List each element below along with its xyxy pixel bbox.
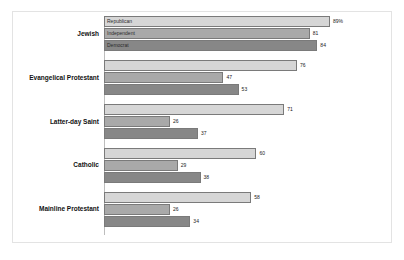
bar-value-label: 84 — [320, 41, 326, 50]
bar-value-label: 71 — [287, 105, 293, 114]
category-label-evangelical-protestant: Evangelical Protestant — [29, 73, 99, 82]
category-label-catholic: Catholic — [73, 160, 99, 169]
bar-value-label: 38 — [204, 173, 210, 182]
chart-root: JewishEvangelical ProtestantLatter-day S… — [0, 0, 404, 260]
bar-group: Republican89%Independent81Democrat84 — [104, 16, 376, 52]
bar-row: 26 — [104, 116, 376, 127]
bar-value-label: 26 — [173, 205, 179, 214]
legend-label-republican: Republican — [107, 17, 132, 26]
legend-label-independent: Independent — [107, 29, 135, 38]
bar-republican-latter-day-saint[interactable] — [104, 104, 284, 115]
bar-democrat-jewish[interactable] — [104, 40, 317, 51]
bar-row: 53 — [104, 84, 376, 95]
plot-area: Republican89%Independent81Democrat847647… — [104, 16, 376, 235]
bar-row: 47 — [104, 72, 376, 83]
bar-value-label: 47 — [226, 73, 232, 82]
bar-independent-catholic[interactable] — [104, 160, 178, 171]
bar-democrat-latter-day-saint[interactable] — [104, 128, 198, 139]
bar-row: 38 — [104, 172, 376, 183]
bar-value-label: 81 — [313, 29, 319, 38]
bar-row: Democrat84 — [104, 40, 376, 51]
category-axis-labels: JewishEvangelical ProtestantLatter-day S… — [0, 16, 99, 235]
bar-row: 26 — [104, 204, 376, 215]
bar-group: 602938 — [104, 148, 376, 184]
bar-row: 29 — [104, 160, 376, 171]
bar-value-label: 60 — [259, 149, 265, 158]
bar-value-label: 58 — [254, 193, 260, 202]
legend-label-democrat: Democrat — [107, 41, 129, 50]
bar-value-label: 76 — [300, 61, 306, 70]
bar-value-label: 29 — [181, 161, 187, 170]
bar-row: 71 — [104, 104, 376, 115]
bar-democrat-mainline-protestant[interactable] — [104, 216, 190, 227]
bar-row: 34 — [104, 216, 376, 227]
bar-group: 712637 — [104, 104, 376, 140]
category-label-mainline-protestant: Mainline Protestant — [39, 204, 99, 213]
bar-democrat-evangelical-protestant[interactable] — [104, 84, 239, 95]
bar-row: 76 — [104, 60, 376, 71]
bar-republican-mainline-protestant[interactable] — [104, 192, 251, 203]
bar-group: 582634 — [104, 192, 376, 228]
category-label-jewish: Jewish — [77, 29, 99, 38]
bar-value-label: 34 — [193, 217, 199, 226]
bar-independent-latter-day-saint[interactable] — [104, 116, 170, 127]
bar-value-label: 37 — [201, 129, 207, 138]
bar-row: 37 — [104, 128, 376, 139]
category-label-latter-day-saint: Latter-day Saint — [50, 117, 99, 126]
bar-group: 764753 — [104, 60, 376, 96]
bar-value-label: 26 — [173, 117, 179, 126]
bar-republican-jewish[interactable] — [104, 16, 330, 27]
bar-row: Independent81 — [104, 28, 376, 39]
bar-republican-evangelical-protestant[interactable] — [104, 60, 297, 71]
bar-row: Republican89% — [104, 16, 376, 27]
bar-value-label: 53 — [242, 85, 248, 94]
bar-republican-catholic[interactable] — [104, 148, 256, 159]
bar-democrat-catholic[interactable] — [104, 172, 201, 183]
bar-independent-mainline-protestant[interactable] — [104, 204, 170, 215]
bar-value-label: 89% — [333, 17, 343, 26]
bar-independent-evangelical-protestant[interactable] — [104, 72, 223, 83]
bar-row: 60 — [104, 148, 376, 159]
bar-row: 58 — [104, 192, 376, 203]
